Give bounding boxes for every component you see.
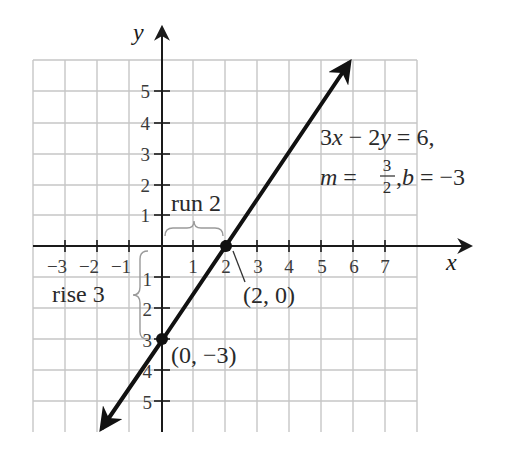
svg-text:−1: −1 <box>111 256 131 277</box>
svg-text:−3: −3 <box>47 256 67 277</box>
svg-text:3: 3 <box>143 330 153 351</box>
svg-text:4: 4 <box>284 256 294 277</box>
svg-text:1: 1 <box>143 269 153 290</box>
svg-text:5: 5 <box>143 392 153 413</box>
svg-text:2: 2 <box>383 178 392 197</box>
x-axis-label: x <box>445 249 457 275</box>
rise-label: rise 3 <box>52 281 105 307</box>
point-y-intercept <box>156 333 168 345</box>
y-axis-label: y <box>131 19 144 45</box>
slope-fraction: 3 2 <box>380 156 395 197</box>
svg-text:1: 1 <box>188 256 198 277</box>
svg-text:2: 2 <box>221 256 231 277</box>
svg-text:3: 3 <box>253 256 263 277</box>
svg-text:7: 7 <box>380 256 390 277</box>
point-x-intercept <box>220 240 232 252</box>
svg-text:1: 1 <box>141 205 151 226</box>
svg-text:6: 6 <box>349 256 359 277</box>
run-brace <box>165 221 223 236</box>
svg-text:2: 2 <box>143 299 153 320</box>
svg-text:4: 4 <box>141 113 151 134</box>
equation-line-2-rest: ,b = −3 <box>396 164 465 190</box>
equation-line-1: 3x − 2y = 6, <box>320 124 434 150</box>
chart: −3 −2 −1 1 2 3 4 5 6 7 5 4 3 2 1 1 2 3 4… <box>0 0 529 455</box>
svg-text:3: 3 <box>141 144 151 165</box>
svg-text:5: 5 <box>141 81 151 102</box>
svg-text:3: 3 <box>383 156 392 175</box>
run-label: run 2 <box>171 190 221 216</box>
point-a-label: (2, 0) <box>243 282 295 308</box>
svg-text:5: 5 <box>317 256 327 277</box>
svg-text:2: 2 <box>141 175 151 196</box>
line-3x-2y-6-lower <box>102 339 163 428</box>
point-b-label: (0, −3) <box>171 342 237 368</box>
equation-line-2: m = <box>320 164 357 190</box>
svg-text:−2: −2 <box>79 256 99 277</box>
rise-brace <box>133 251 148 339</box>
